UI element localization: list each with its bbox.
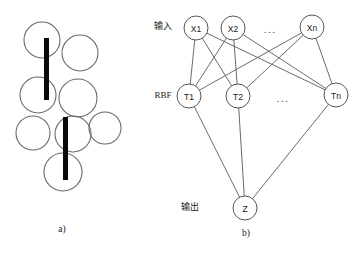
node-t1-label: T1 bbox=[184, 92, 194, 102]
panel-a bbox=[16, 22, 121, 191]
node-xn-label: Xn bbox=[307, 23, 318, 33]
node-t2-label: T2 bbox=[233, 92, 243, 102]
edge-node-x1-to-node-t2 bbox=[202, 38, 231, 86]
edge-node-x2-to-node-t1 bbox=[196, 38, 227, 86]
panel-b-nodes: X1X2XnT1T2TnZ bbox=[177, 15, 348, 220]
blob-circle-5 bbox=[89, 112, 121, 144]
feature-bar-lower bbox=[63, 117, 68, 180]
blob-circle-4 bbox=[59, 79, 97, 117]
blob-circle-7 bbox=[55, 116, 91, 152]
panel-a-caption: a) bbox=[58, 224, 65, 235]
rbf-layer-label: RBF bbox=[154, 90, 171, 100]
node-x1-label: X1 bbox=[191, 24, 202, 34]
node-z-label: Z bbox=[242, 204, 247, 214]
node-x2[interactable]: X2 bbox=[221, 16, 245, 40]
node-t2[interactable]: T2 bbox=[226, 84, 250, 108]
figure-root: X1X2XnT1T2TnZ 输入RBF输出...... a)b) bbox=[0, 0, 363, 253]
node-z[interactable]: Z bbox=[233, 196, 257, 220]
node-x2-label: X2 bbox=[228, 24, 239, 34]
blob-circle-6 bbox=[16, 116, 50, 150]
node-tn[interactable]: Tn bbox=[324, 83, 348, 107]
figure-canvas: X1X2XnT1T2TnZ 输入RBF输出...... a)b) bbox=[0, 0, 363, 253]
blob-circle-3 bbox=[20, 77, 56, 113]
input-layer-label: 输入 bbox=[154, 20, 172, 31]
edge-node-t1-to-node-z bbox=[194, 107, 239, 198]
edge-node-t2-to-node-z bbox=[239, 108, 245, 196]
feature-bar-upper bbox=[44, 38, 49, 100]
node-t1[interactable]: T1 bbox=[177, 84, 201, 108]
panel-b-text: 输入RBF输出...... bbox=[154, 20, 289, 212]
edge-node-xn-to-node-t2 bbox=[247, 35, 303, 88]
edge-node-xn-to-node-t1 bbox=[199, 33, 301, 90]
input-ellipsis: ... bbox=[264, 23, 277, 35]
edge-node-x1-to-node-t1 bbox=[190, 40, 195, 84]
blob-circle-2 bbox=[62, 35, 98, 71]
blob-circle-1 bbox=[24, 22, 60, 58]
edge-node-xn-to-node-tn bbox=[316, 38, 332, 83]
panel-b-edges bbox=[190, 33, 332, 199]
figure-captions: a)b) bbox=[58, 224, 250, 239]
rbf-ellipsis: ... bbox=[277, 92, 290, 104]
node-xn[interactable]: Xn bbox=[300, 15, 324, 39]
panel-b-caption: b) bbox=[242, 228, 250, 239]
node-tn-label: Tn bbox=[331, 91, 341, 101]
edge-node-tn-to-node-z bbox=[253, 104, 329, 198]
output-layer-label: 输出 bbox=[181, 201, 199, 212]
node-x1[interactable]: X1 bbox=[184, 16, 208, 40]
